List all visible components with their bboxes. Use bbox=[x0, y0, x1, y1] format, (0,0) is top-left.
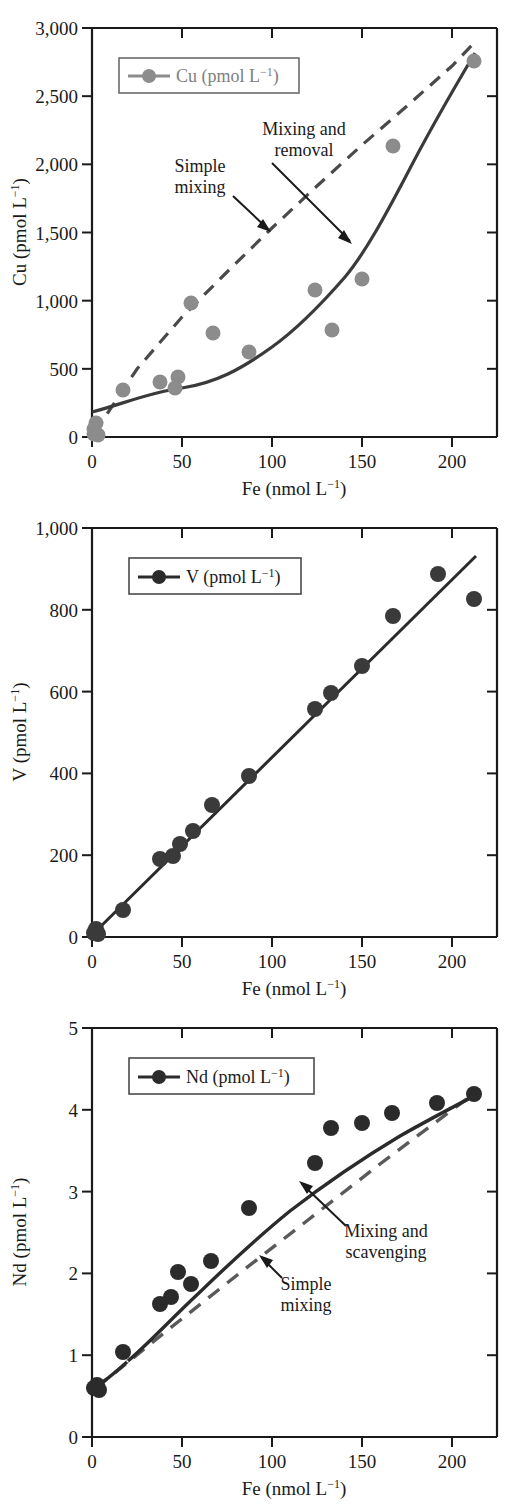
data-point bbox=[323, 1120, 339, 1136]
data-point bbox=[90, 926, 106, 942]
x-ticklabel: 150 bbox=[348, 1451, 377, 1472]
x-ticklabel: 50 bbox=[173, 1451, 192, 1472]
x-axis-title-v: Fe (nmol L−1) bbox=[242, 977, 347, 1000]
y-ticklabel: 1,000 bbox=[35, 518, 78, 539]
data-points-cu bbox=[87, 54, 482, 443]
panel-cu: 3,000 2,500 2,000 1,500 1,000 500 0 0 50… bbox=[0, 0, 519, 500]
panel-nd: 5 4 3 2 1 0 0 50 100 150 200 Nd (pmol L−… bbox=[0, 1000, 519, 1509]
data-point bbox=[307, 1155, 323, 1171]
data-point bbox=[184, 296, 199, 311]
data-point bbox=[323, 685, 339, 701]
data-point bbox=[355, 272, 370, 287]
data-point bbox=[204, 797, 220, 813]
panel-v: 1,000 800 600 400 200 0 0 50 100 150 200… bbox=[0, 500, 519, 1000]
legend-cu[interactable]: Cu (pmol L−1) bbox=[119, 58, 299, 93]
x-ticklabel: 150 bbox=[348, 951, 377, 972]
chart-nd: 5 4 3 2 1 0 0 50 100 150 200 Nd (pmol L−… bbox=[0, 1000, 519, 1509]
x-ticklabel: 0 bbox=[87, 451, 97, 472]
y-axis-title-v: V (pmol L−1) bbox=[8, 683, 31, 782]
annotation-line1: Mixing and bbox=[262, 119, 346, 139]
x-axis-title-nd: Fe (nmol L−1) bbox=[242, 1477, 347, 1500]
data-point bbox=[91, 1382, 107, 1398]
annotation-mixing-scavenging-nd: Mixing and scavenging bbox=[299, 1181, 428, 1262]
data-point bbox=[203, 1253, 219, 1269]
x-ticklabel: 150 bbox=[348, 451, 377, 472]
y-ticklabel: 400 bbox=[50, 763, 79, 784]
y-ticklabel: 0 bbox=[69, 1427, 79, 1448]
annotation-simple-mixing-nd: Simple mixing bbox=[259, 1255, 332, 1315]
data-point bbox=[153, 375, 168, 390]
y-ticklabel: 5 bbox=[69, 1018, 79, 1039]
data-point bbox=[115, 1344, 131, 1360]
annotation-line2: scavenging bbox=[346, 1242, 427, 1262]
y-ticklabel: 2,000 bbox=[35, 154, 78, 175]
data-point bbox=[171, 370, 186, 385]
chart-cu: 3,000 2,500 2,000 1,500 1,000 500 0 0 50… bbox=[0, 0, 519, 500]
x-ticklabel: 50 bbox=[173, 951, 192, 972]
annotation-line1: Simple bbox=[280, 1274, 331, 1294]
x-ticklabel: 100 bbox=[258, 951, 287, 972]
data-point bbox=[241, 1200, 257, 1216]
y-ticklabel: 0 bbox=[69, 927, 79, 948]
y-ticklabel: 600 bbox=[50, 682, 79, 703]
annotation-line2: removal bbox=[275, 140, 334, 160]
curve-mixing-removal-cu bbox=[92, 53, 475, 412]
data-point bbox=[307, 701, 323, 717]
data-point bbox=[466, 591, 482, 607]
legend-v[interactable]: V (pmol L−1) bbox=[129, 558, 301, 594]
legend-marker-cu bbox=[142, 69, 156, 83]
data-point bbox=[354, 658, 370, 674]
x-ticklabel: 0 bbox=[87, 951, 97, 972]
y-ticklabel: 1,500 bbox=[35, 223, 78, 244]
data-point bbox=[116, 383, 131, 398]
data-point bbox=[466, 1086, 482, 1102]
figure-container: 3,000 2,500 2,000 1,500 1,000 500 0 0 50… bbox=[0, 0, 519, 1509]
data-point bbox=[242, 345, 257, 360]
x-ticklabel: 50 bbox=[173, 451, 192, 472]
y-ticklabel: 3 bbox=[69, 1182, 79, 1203]
annotation-leader bbox=[272, 163, 350, 241]
data-point bbox=[429, 1095, 445, 1111]
chart-v: 1,000 800 600 400 200 0 0 50 100 150 200… bbox=[0, 500, 519, 1000]
y-ticklabel: 200 bbox=[50, 845, 79, 866]
y-ticklabel: 2,500 bbox=[35, 86, 78, 107]
data-points-v bbox=[86, 566, 482, 942]
data-point bbox=[354, 1115, 370, 1131]
data-point bbox=[467, 54, 482, 69]
y-ticklabel: 1 bbox=[69, 1345, 79, 1366]
curve-simple-mixing-cu bbox=[95, 42, 475, 432]
y-ticklabel: 800 bbox=[50, 600, 79, 621]
annotation-line2: mixing bbox=[174, 177, 225, 197]
y-axis-title-nd: Nd (pmol L−1) bbox=[8, 1178, 31, 1287]
data-point bbox=[185, 823, 201, 839]
data-point bbox=[325, 323, 340, 338]
data-point bbox=[241, 768, 257, 784]
y-axis-title-cu: Cu (pmol L−1) bbox=[8, 178, 31, 286]
annotation-simple-mixing-cu: Simple mixing bbox=[174, 156, 271, 232]
x-ticklabel: 100 bbox=[258, 1451, 287, 1472]
y-ticklabel: 4 bbox=[69, 1100, 79, 1121]
x-ticklabel: 200 bbox=[438, 451, 467, 472]
annotation-line1: Mixing and bbox=[344, 1221, 428, 1241]
x-axis-title-cu: Fe (nmol L−1) bbox=[242, 477, 347, 500]
data-point bbox=[206, 326, 221, 341]
annotation-line2: mixing bbox=[280, 1295, 331, 1315]
curve-linear-fit-v bbox=[92, 556, 476, 935]
y-ticklabel: 3,000 bbox=[35, 18, 78, 39]
data-point bbox=[170, 1264, 186, 1280]
y-ticklabel: 1,000 bbox=[35, 291, 78, 312]
data-point bbox=[386, 139, 401, 154]
y-ticklabel: 0 bbox=[69, 427, 79, 448]
x-ticklabel: 0 bbox=[87, 1451, 97, 1472]
data-point bbox=[163, 1289, 179, 1305]
y-ticklabel: 2 bbox=[69, 1263, 79, 1284]
data-point bbox=[430, 566, 446, 582]
data-point bbox=[172, 836, 188, 852]
legend-marker-nd bbox=[152, 1070, 166, 1084]
annotation-line1: Simple bbox=[174, 156, 225, 176]
data-point bbox=[385, 608, 401, 624]
x-ticklabel: 200 bbox=[438, 1451, 467, 1472]
x-ticklabel: 200 bbox=[438, 951, 467, 972]
legend-nd[interactable]: Nd (pmol L−1) bbox=[129, 1058, 314, 1094]
data-point bbox=[183, 1276, 199, 1292]
